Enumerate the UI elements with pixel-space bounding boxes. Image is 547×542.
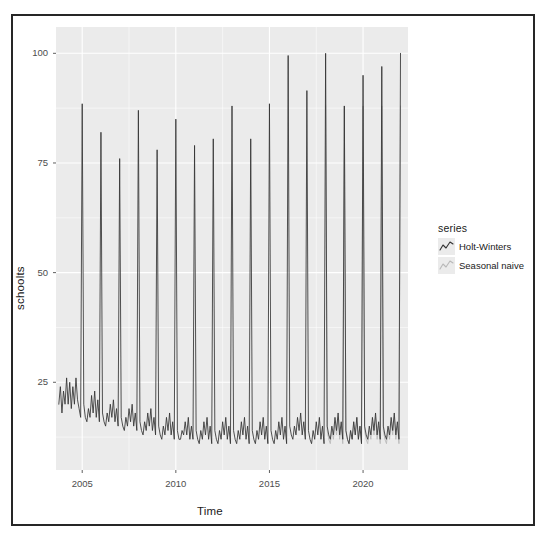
y-tick-label: 75 xyxy=(14,157,48,168)
x-axis-title: Time xyxy=(0,505,420,517)
legend-entry[interactable]: Holt-Winters xyxy=(438,238,538,255)
y-tick-label: 100 xyxy=(14,47,48,58)
legend-entries: Holt-WintersSeasonal naive xyxy=(438,238,538,274)
panel xyxy=(56,27,408,470)
x-tick-label: 2005 xyxy=(60,478,104,489)
y-tick-label: 50 xyxy=(14,267,48,278)
legend-title: series xyxy=(438,222,538,234)
y-tick-label: 25 xyxy=(14,376,48,387)
legend-entry[interactable]: Seasonal naive xyxy=(438,257,538,274)
legend-label: Holt-Winters xyxy=(459,241,511,252)
x-tick-label: 2010 xyxy=(154,478,198,489)
x-tick-label: 2020 xyxy=(341,478,385,489)
x-tick-label: 2015 xyxy=(247,478,291,489)
legend: series Holt-WintersSeasonal naive xyxy=(438,222,538,276)
legend-key-icon xyxy=(438,238,455,255)
legend-key-icon xyxy=(438,257,455,274)
legend-label: Seasonal naive xyxy=(459,260,524,271)
chart-screenshot: schoolts Time 255075100 2005201020152020… xyxy=(0,0,547,542)
